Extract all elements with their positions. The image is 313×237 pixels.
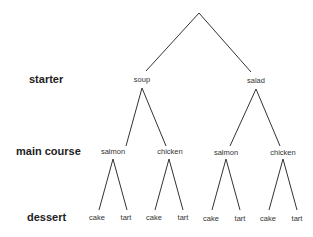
node-tart: tart <box>178 213 189 222</box>
tree-edges <box>0 0 313 237</box>
node-soup: soup <box>134 75 150 84</box>
node-salmon: salmon <box>101 147 125 156</box>
node-cake: cake <box>203 214 219 223</box>
node-chicken: chicken <box>157 147 182 156</box>
node-cake: cake <box>260 214 276 223</box>
level-label-starter: starter <box>29 73 63 85</box>
node-chicken: chicken <box>270 148 295 157</box>
node-tart: tart <box>121 213 132 222</box>
node-cake: cake <box>89 213 105 222</box>
node-salmon: salmon <box>214 148 238 157</box>
node-salad: salad <box>247 76 265 85</box>
node-tart: tart <box>292 214 303 223</box>
level-label-main-course: main course <box>16 145 81 157</box>
node-tart: tart <box>235 214 246 223</box>
level-label-dessert: dessert <box>27 211 66 223</box>
node-cake: cake <box>146 213 162 222</box>
